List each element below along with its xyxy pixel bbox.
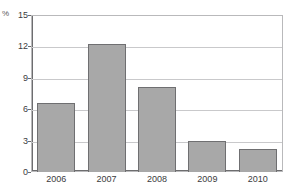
cropped-title-text: [6, 0, 156, 6]
x-axis-tick-label: 2007: [81, 174, 131, 185]
bar: [188, 141, 226, 172]
bars-group: [31, 15, 283, 172]
y-axis-tick-label: 3: [4, 137, 28, 146]
bar: [239, 149, 277, 172]
bar: [138, 87, 176, 172]
y-axis-tick-label: 12: [4, 42, 28, 51]
x-axis-tick-label: 2009: [182, 174, 232, 185]
x-axis-tick-label: 2006: [31, 174, 81, 185]
bar: [37, 103, 75, 172]
y-axis-tick-label: 9: [4, 74, 28, 83]
y-axis-tick-labels: 03691215: [0, 15, 28, 172]
bar-chart: % 03691215 20062007200820092010: [0, 0, 291, 195]
x-axis-tick-label: 2008: [132, 174, 182, 185]
y-axis-tick-label: 0: [4, 168, 28, 177]
y-axis-tick-mark: [28, 172, 31, 173]
y-axis-tick-label: 6: [4, 105, 28, 114]
y-axis-tick-label: 15: [4, 11, 28, 20]
x-axis-tick-labels: 20062007200820092010: [31, 174, 283, 188]
bar: [88, 44, 126, 172]
x-axis-tick-label: 2010: [233, 174, 283, 185]
